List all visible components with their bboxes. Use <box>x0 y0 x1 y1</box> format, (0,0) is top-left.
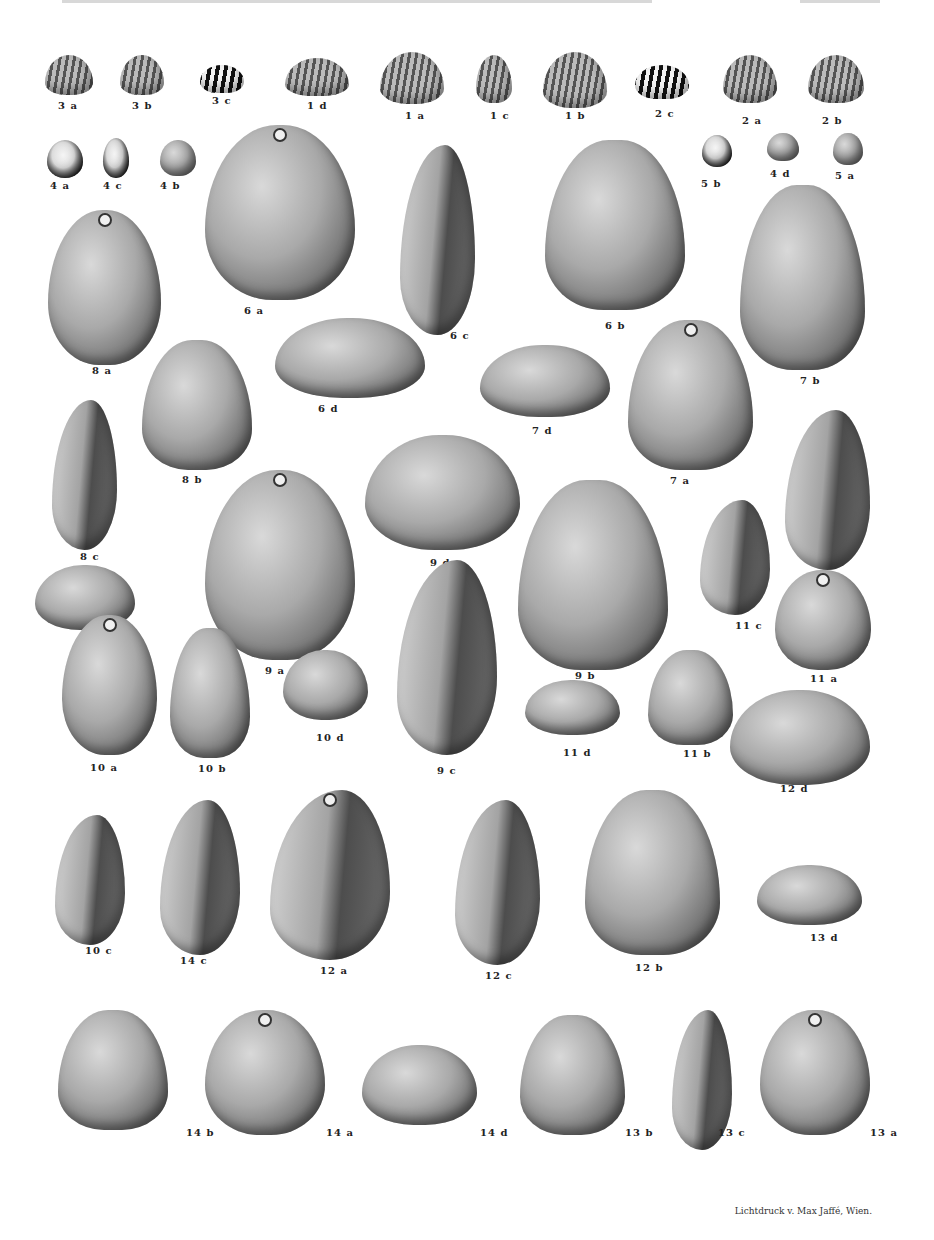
foramen-icon <box>98 213 112 227</box>
foramen-icon <box>103 618 117 632</box>
shell-illustration <box>635 65 689 99</box>
specimen-figure <box>52 400 117 550</box>
figure-label: 4 c <box>103 180 123 191</box>
figure-label: 11 a <box>810 673 838 684</box>
specimen-figure <box>730 690 870 785</box>
specimen-figure <box>362 1045 477 1125</box>
shell-illustration <box>476 55 512 103</box>
specimen-figure <box>525 680 620 735</box>
foramen-icon <box>258 1013 272 1027</box>
shell-illustration <box>543 52 607 108</box>
specimen-figure <box>723 55 777 103</box>
figure-label: 2 b <box>822 115 842 126</box>
shell-illustration <box>397 560 497 755</box>
foramen-icon <box>816 573 830 587</box>
shell-illustration <box>628 320 753 470</box>
specimen-figure <box>833 133 863 165</box>
foramen-icon <box>808 1013 822 1027</box>
shell-illustration <box>205 1010 325 1135</box>
shell-illustration <box>62 615 157 755</box>
specimen-figure <box>400 145 475 335</box>
figure-label: 5 b <box>701 178 721 189</box>
shell-illustration <box>270 790 390 960</box>
shell-illustration <box>170 628 250 758</box>
foramen-icon <box>273 473 287 487</box>
figure-label: 3 a <box>58 100 78 111</box>
figure-label: 8 b <box>182 474 202 485</box>
specimen-figure <box>205 125 355 300</box>
shell-illustration <box>58 1010 168 1130</box>
figure-label: 11 c <box>735 620 763 631</box>
specimen-figure <box>47 140 83 178</box>
figure-label: 1 b <box>565 110 585 121</box>
figure-label: 14 a <box>326 1127 354 1138</box>
shell-illustration <box>455 800 540 965</box>
figure-label: 11 d <box>563 747 591 758</box>
figure-label: 1 a <box>405 110 425 121</box>
specimen-figure <box>767 133 799 161</box>
specimen-figure <box>808 55 864 103</box>
specimen-figure <box>160 140 196 176</box>
shell-illustration <box>120 55 164 95</box>
shell-illustration <box>205 125 355 300</box>
figure-label: 14 d <box>480 1127 508 1138</box>
figure-label: 14 c <box>180 955 208 966</box>
figure-label: 10 d <box>316 732 344 743</box>
specimen-figure <box>55 815 125 945</box>
specimen-figure <box>455 800 540 965</box>
specimen-figure <box>585 790 720 955</box>
shell-illustration <box>45 55 93 95</box>
shell-illustration <box>103 138 129 178</box>
shell-illustration <box>833 133 863 165</box>
shell-illustration <box>760 1010 870 1135</box>
shell-illustration <box>730 690 870 785</box>
figure-label: 12 b <box>635 962 663 973</box>
specimen-figure <box>45 55 93 95</box>
shell-illustration <box>545 140 685 310</box>
figure-label: 2 a <box>742 115 762 126</box>
shell-illustration <box>767 133 799 161</box>
figure-label: 7 b <box>800 375 820 386</box>
shell-illustration <box>142 340 252 470</box>
specimen-figure <box>785 410 870 570</box>
shell-illustration <box>55 815 125 945</box>
specimen-figure <box>520 1015 625 1135</box>
figure-label: 3 c <box>212 95 232 106</box>
specimen-figure <box>648 650 733 745</box>
figure-label: 5 a <box>835 170 855 181</box>
figure-label: 4 b <box>160 180 180 191</box>
figure-label: 9 a <box>265 665 285 676</box>
specimen-figure <box>740 185 865 370</box>
shell-illustration <box>700 500 770 615</box>
figure-label: 3 b <box>132 100 152 111</box>
figure-label: 6 d <box>318 403 338 414</box>
figure-label: 9 c <box>437 765 457 776</box>
specimen-figure <box>170 628 250 758</box>
specimen-figure <box>160 800 240 955</box>
specimen-figure <box>285 58 349 96</box>
figure-label: 13 b <box>625 1127 653 1138</box>
shell-illustration <box>52 400 117 550</box>
figure-label: 1 c <box>490 110 510 121</box>
foramen-icon <box>273 128 287 142</box>
specimen-figure <box>58 1010 168 1130</box>
header-cutoff-line <box>62 0 652 3</box>
shell-illustration <box>702 135 732 167</box>
figure-label: 6 c <box>450 330 470 341</box>
plate: 3 a3 b3 c1 d1 a1 c1 b2 c2 a2 b4 a4 c4 b5… <box>0 0 934 1240</box>
specimen-figure <box>757 865 862 925</box>
figure-label: 8 a <box>92 365 112 376</box>
figure-label: 10 c <box>85 945 113 956</box>
figure-label: 13 d <box>810 932 838 943</box>
shell-illustration <box>160 800 240 955</box>
figure-label: 4 d <box>770 168 790 179</box>
printer-credit: Lichtdruck v. Max Jaffé, Wien. <box>735 1206 872 1216</box>
foramen-icon <box>684 323 698 337</box>
shell-illustration <box>283 650 368 720</box>
figure-label: 11 b <box>683 748 711 759</box>
figure-label: 12 a <box>320 965 348 976</box>
specimen-figure <box>476 55 512 103</box>
figure-label: 7 a <box>670 475 690 486</box>
shell-illustration <box>518 480 668 670</box>
shell-illustration <box>480 345 610 417</box>
